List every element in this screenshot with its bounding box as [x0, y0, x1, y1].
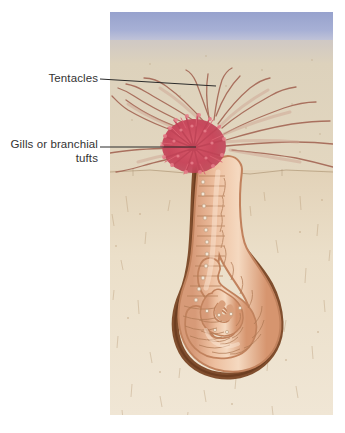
label-gills: Gills or branchial tufts — [0, 138, 98, 165]
lugworm-illustration — [0, 0, 345, 433]
label-tentacles: Tentacles — [0, 72, 98, 86]
panel — [110, 12, 333, 420]
